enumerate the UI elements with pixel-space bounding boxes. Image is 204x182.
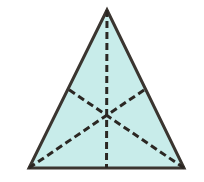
figure-canvas: [0, 0, 204, 182]
triangle-diagram: [0, 0, 204, 182]
median-apex-to-base: [107, 10, 108, 168]
